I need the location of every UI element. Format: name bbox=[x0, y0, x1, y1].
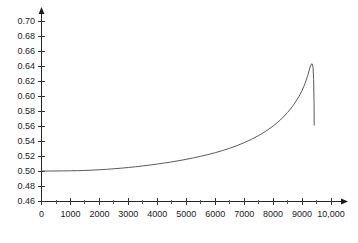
x-tick-label: 7000 bbox=[234, 209, 254, 219]
x-tick-label: 8000 bbox=[263, 209, 283, 219]
y-tick-label: 0.70 bbox=[5, 16, 35, 26]
y-tick-label: 0.62 bbox=[5, 76, 35, 86]
x-tick-label: 6000 bbox=[205, 209, 225, 219]
x-tick-label: 4000 bbox=[147, 209, 167, 219]
y-tick-label: 0.50 bbox=[5, 166, 35, 176]
x-tick-label: 1000 bbox=[60, 209, 80, 219]
x-tick-label: 2000 bbox=[89, 209, 109, 219]
y-tick-label: 0.54 bbox=[5, 136, 35, 146]
y-tick-label: 0.64 bbox=[5, 61, 35, 71]
x-tick-label: 10,000 bbox=[317, 209, 345, 219]
x-axis-arrow-icon bbox=[341, 199, 348, 205]
y-tick-label: 0.46 bbox=[5, 196, 35, 206]
x-tick-label: 0 bbox=[39, 209, 44, 219]
y-tick-label: 0.58 bbox=[5, 106, 35, 116]
x-tick-label: 3000 bbox=[118, 209, 138, 219]
plot-area bbox=[0, 0, 358, 243]
y-tick-label: 0.66 bbox=[5, 46, 35, 56]
data-series-curve bbox=[42, 64, 315, 171]
y-tick-label: 0.68 bbox=[5, 31, 35, 41]
y-tick-label: 0.48 bbox=[5, 181, 35, 191]
x-tick-label: 9000 bbox=[292, 209, 312, 219]
y-tick-label: 0.52 bbox=[5, 151, 35, 161]
y-tick-label: 0.60 bbox=[5, 91, 35, 101]
y-tick-label: 0.56 bbox=[5, 121, 35, 131]
x-tick-label: 5000 bbox=[176, 209, 196, 219]
chart-container: 0.460.480.500.520.540.560.580.600.620.64… bbox=[0, 0, 358, 243]
y-axis-arrow-icon bbox=[39, 7, 45, 14]
